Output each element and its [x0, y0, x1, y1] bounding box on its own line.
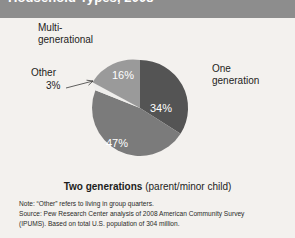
- footnote-source-line2: (IPUMS). Based on total U.S. population …: [19, 219, 287, 229]
- chart-figure: Household Types, 2008 Multi- generationa…: [0, 0, 295, 238]
- callout-one-generation-line1: One: [212, 63, 259, 75]
- callout-multi-generational: Multi- generational: [38, 22, 93, 45]
- slice-percent-multi-generational: 16%: [112, 69, 134, 81]
- callout-other-percent: 3%: [46, 80, 60, 92]
- footnote-source-line1: Source: Pew Research Center analysis of …: [19, 209, 287, 219]
- footnote-note: Note: “Other” refers to living in group …: [19, 199, 287, 209]
- callout-two-generations-bold: Two generations: [64, 181, 143, 192]
- callout-one-generation-line2: generation: [212, 75, 259, 87]
- slice-percent-one-generation: 34%: [150, 102, 172, 114]
- callout-multi-generational-line1: Multi-: [38, 22, 93, 34]
- pie-chart-plot-area: Multi- generational Other 3% One generat…: [0, 18, 295, 193]
- page-title: Household Types, 2008: [8, 0, 154, 5]
- callout-other: Other: [31, 67, 56, 79]
- callout-one-generation: One generation: [212, 63, 259, 86]
- callout-two-generations-note: (parent/minor child): [145, 181, 231, 192]
- chart-header-band: Household Types, 2008: [0, 0, 295, 18]
- slice-percent-two-generations: 47%: [106, 137, 128, 149]
- callout-two-generations: Two generations (parent/minor child): [0, 181, 295, 192]
- callout-multi-generational-line2: generational: [38, 34, 93, 46]
- chart-footnotes: Note: “Other” refers to living in group …: [19, 199, 287, 229]
